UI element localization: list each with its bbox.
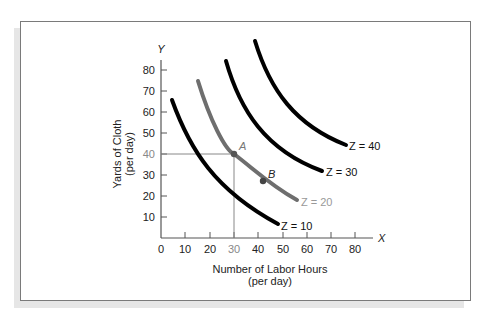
isoquant-z30 <box>226 61 322 171</box>
label-z30: Z = 30 <box>326 166 358 178</box>
chart-canvas: 10 20 30 40 50 60 70 80 0 10 20 30 40 50… <box>0 0 486 328</box>
x-axis-title: Number of Labor Hours <box>213 263 328 275</box>
y-axis-symbol: Y <box>157 43 165 55</box>
y-axis-title-group: Yards of Cloth (per day) <box>111 120 135 189</box>
svg-text:20: 20 <box>143 190 155 202</box>
svg-text:80: 80 <box>349 243 361 255</box>
svg-text:60: 60 <box>143 106 155 118</box>
y-ticks <box>161 70 167 217</box>
label-z10: Z = 10 <box>281 220 313 232</box>
x-tick-labels: 0 10 20 30 40 50 60 70 80 <box>158 243 361 255</box>
svg-text:10: 10 <box>143 211 155 223</box>
svg-text:70: 70 <box>143 85 155 97</box>
isoquant-z40 <box>255 41 346 145</box>
svg-text:0: 0 <box>158 243 164 255</box>
svg-text:40: 40 <box>143 148 155 160</box>
point-a-label: A <box>238 140 246 152</box>
point-b <box>260 178 266 184</box>
point-a <box>231 151 237 157</box>
label-z40: Z = 40 <box>349 140 381 152</box>
svg-text:40: 40 <box>252 243 264 255</box>
svg-text:80: 80 <box>143 64 155 76</box>
y-tick-labels: 10 20 30 40 50 60 70 80 <box>143 64 155 223</box>
svg-text:50: 50 <box>143 127 155 139</box>
svg-text:10: 10 <box>179 243 191 255</box>
svg-text:70: 70 <box>325 243 337 255</box>
isoquant-z10 <box>172 100 278 224</box>
y-axis-title-sub: (per day) <box>123 132 135 176</box>
svg-text:50: 50 <box>277 243 289 255</box>
label-z20: Z = 20 <box>301 196 333 208</box>
x-axis-symbol: X <box>377 232 386 244</box>
svg-text:20: 20 <box>204 243 216 255</box>
svg-text:30: 30 <box>228 243 240 255</box>
x-ticks <box>185 232 355 238</box>
point-b-label: B <box>268 168 275 180</box>
x-axis-title-sub: (per day) <box>248 275 292 287</box>
svg-text:60: 60 <box>301 243 313 255</box>
svg-text:30: 30 <box>143 169 155 181</box>
y-axis-title: Yards of Cloth <box>111 120 123 189</box>
